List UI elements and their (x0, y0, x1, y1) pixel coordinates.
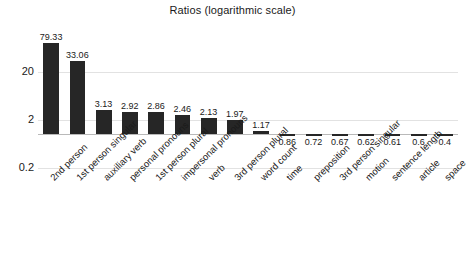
y-axis-tick-label: 2 (4, 113, 34, 125)
bar[interactable] (253, 131, 269, 134)
bar[interactable] (96, 110, 112, 134)
y-axis-tick-label: 0.2 (4, 161, 34, 173)
bar[interactable] (43, 43, 59, 134)
bar[interactable] (411, 134, 427, 136)
gridline-y-20 (38, 72, 458, 73)
y-axis-tick-label: 20 (4, 65, 34, 77)
chart-title: Ratios (logarithmic scale) (0, 4, 465, 16)
bar[interactable] (332, 134, 348, 136)
bar-value-label: 1.17 (244, 120, 278, 130)
bar-value-label: 33.06 (60, 50, 94, 60)
bar-value-label: 1.97 (218, 109, 252, 119)
bar[interactable] (358, 134, 374, 136)
bar-value-label: 79.33 (34, 32, 68, 42)
bar[interactable] (306, 134, 322, 136)
bar[interactable] (70, 61, 86, 134)
bar-value-label: 0.4 (428, 137, 462, 147)
bar[interactable] (148, 112, 164, 134)
